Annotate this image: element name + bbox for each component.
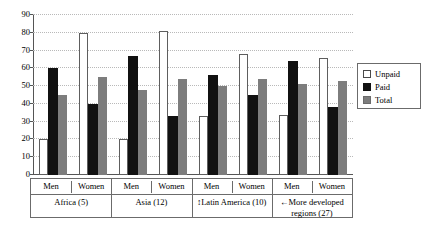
bar-paid <box>48 68 58 175</box>
bar-unpaid <box>119 139 129 175</box>
y-axis-tick-mark <box>30 121 33 122</box>
x-axis-gender-label: Men <box>192 179 232 194</box>
legend-label: Unpaid <box>375 70 400 79</box>
x-axis-region-label: ↕Latin America (10) <box>192 195 272 217</box>
bar-paid <box>248 95 258 175</box>
legend-swatch-paid-icon <box>363 83 371 91</box>
y-axis-tick-mark <box>30 156 33 157</box>
bar-cluster <box>113 14 153 175</box>
y-axis-tick-mark <box>30 14 33 15</box>
bar-total <box>258 79 268 175</box>
bar-cluster <box>193 14 233 175</box>
x-axis-gender-label: Women <box>312 179 352 194</box>
y-axis-tick-label: 90 <box>22 10 31 19</box>
y-axis-tick-label: 70 <box>22 45 31 54</box>
y-axis-tick-label: 30 <box>22 116 31 125</box>
bar-unpaid <box>319 58 329 175</box>
y-axis-labels: 0102030405060708090 <box>10 0 30 229</box>
bar-unpaid <box>39 139 49 175</box>
x-axis-region-label: ←More developed regions (27) <box>272 195 352 217</box>
x-axis-label-table: MenWomenMenWomenMenWomenMenWomenAfrica (… <box>30 178 353 218</box>
y-axis-tick-mark <box>30 174 33 175</box>
y-axis-tick-label: 20 <box>22 134 31 143</box>
chart-legend: UnpaidPaidTotal <box>357 63 421 109</box>
y-axis-tick-label: 60 <box>22 63 31 72</box>
bar-paid <box>88 104 98 175</box>
legend-item-total[interactable]: Total <box>363 94 392 106</box>
y-axis-tick-mark <box>30 85 33 86</box>
bar-paid <box>168 116 178 175</box>
bar-total <box>58 95 68 175</box>
x-axis-gender-label: Women <box>151 179 191 194</box>
x-axis-region-label: Africa (5) <box>31 195 111 217</box>
bar-unpaid <box>199 116 209 175</box>
legend-label: Paid <box>375 83 390 92</box>
legend-item-unpaid[interactable]: Unpaid <box>363 68 400 80</box>
bar-total <box>98 77 108 175</box>
bar-cluster <box>73 14 113 175</box>
x-axis-region-label: Asia (12) <box>111 195 191 217</box>
y-axis-tick-mark <box>30 50 33 51</box>
bar-cluster <box>233 14 273 175</box>
y-axis-tick-label: 10 <box>22 152 31 161</box>
legend-swatch-total-icon <box>363 96 371 104</box>
gender-separator <box>151 181 152 193</box>
bar-unpaid <box>279 115 289 175</box>
y-axis-tick-mark <box>30 67 33 68</box>
x-axis-gender-label: Women <box>232 179 272 194</box>
legend-label: Total <box>375 96 392 105</box>
y-axis-tick-mark <box>30 32 33 33</box>
y-axis-tick-label: 40 <box>22 98 31 107</box>
bar-paid <box>328 107 338 175</box>
bar-unpaid <box>79 33 89 175</box>
x-axis-gender-label: Men <box>31 179 71 194</box>
bar-total <box>218 86 228 175</box>
bar-chart: 0102030405060708090 MenWomenMenWomenMenW… <box>0 0 430 229</box>
bar-cluster <box>153 14 193 175</box>
bar-total <box>178 79 188 175</box>
legend-swatch-unpaid-icon <box>363 70 371 78</box>
bar-paid <box>288 61 298 175</box>
y-axis-tick-mark <box>30 103 33 104</box>
plot-area <box>33 14 353 175</box>
bar-cluster <box>313 14 353 175</box>
y-axis-tick-label: 80 <box>22 27 31 36</box>
bar-total <box>138 90 148 175</box>
bar-cluster <box>33 14 73 175</box>
gender-separator <box>312 181 313 193</box>
y-axis-tick-mark <box>30 138 33 139</box>
bar-total <box>338 81 348 175</box>
bar-unpaid <box>159 31 169 175</box>
bar-total <box>298 84 308 175</box>
gender-separator <box>71 181 72 193</box>
bar-paid <box>208 75 218 175</box>
gender-separator <box>232 181 233 193</box>
bar-unpaid <box>239 54 249 175</box>
x-axis-gender-label: Men <box>111 179 151 194</box>
legend-item-paid[interactable]: Paid <box>363 81 390 93</box>
bar-paid <box>128 56 138 175</box>
bar-cluster <box>273 14 313 175</box>
x-axis-gender-label: Women <box>71 179 111 194</box>
x-axis-gender-label: Men <box>272 179 312 194</box>
y-axis-tick-label: 50 <box>22 81 31 90</box>
